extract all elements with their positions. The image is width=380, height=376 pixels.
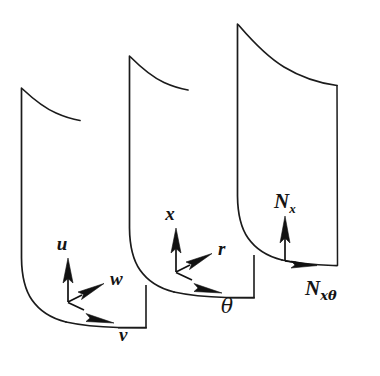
vector-w-label: w bbox=[110, 268, 123, 289]
vector-r-label: r bbox=[218, 238, 226, 259]
vector-nxtheta-label-subscript: xθ bbox=[319, 288, 337, 303]
vector-theta-label: θ bbox=[221, 294, 233, 318]
vector-nx-label-base: N bbox=[273, 189, 290, 213]
panel-3-right-edge bbox=[337, 86, 338, 266]
shell-diagram-figure: u w v x bbox=[0, 0, 380, 376]
vector-v-label: v bbox=[119, 324, 128, 345]
vector-nx-label-subscript: x bbox=[288, 201, 296, 216]
vector-nxtheta-label-base: N bbox=[304, 276, 321, 300]
shell-diagram-canvas: u w v x bbox=[0, 0, 380, 376]
vector-u-label: u bbox=[57, 233, 68, 254]
vector-x-label: x bbox=[164, 203, 175, 224]
